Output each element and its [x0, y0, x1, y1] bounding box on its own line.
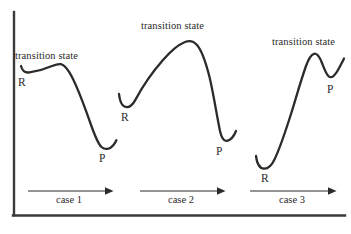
case-1-energy-curve: [21, 64, 116, 149]
case-3-product-label: P: [327, 84, 333, 96]
case-3-curve-group: [256, 54, 344, 169]
case-3-reactant-label: R: [261, 173, 269, 185]
case-1-transition-state-label: transition state: [15, 51, 78, 62]
case-2-curve-group: [119, 41, 236, 141]
case-2-product-label: P: [216, 146, 222, 158]
case-1-caption: case 1: [56, 195, 82, 206]
energy-profile-figure: transition state R P case 1 transition s…: [0, 0, 351, 234]
case-3-energy-curve: [256, 54, 344, 169]
case-2-energy-curve: [119, 41, 236, 141]
case-2-transition-state-label: transition state: [141, 21, 204, 32]
case-2-caption: case 2: [168, 195, 194, 206]
case-1-curve-group: [21, 64, 116, 149]
case-1-reactant-label: R: [18, 77, 26, 89]
case-2-reactant-label: R: [121, 112, 129, 124]
case-3-caption: case 3: [279, 195, 305, 206]
case-1-product-label: P: [99, 153, 105, 165]
case-3-transition-state-label: transition state: [272, 37, 335, 48]
